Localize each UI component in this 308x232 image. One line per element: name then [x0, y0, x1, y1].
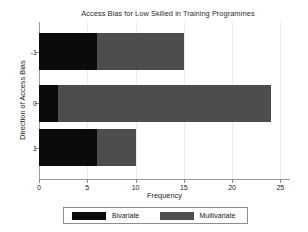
- x-tick: [39, 179, 40, 183]
- bar-segment-bivariate: [39, 129, 97, 166]
- bar-segment-bivariate: [39, 85, 58, 122]
- y-tick-label: 1: [33, 145, 37, 152]
- y-tick-label: 0: [33, 100, 37, 107]
- bar-segment-multivariate: [58, 85, 270, 122]
- legend-label-bivariate: Bivariate: [112, 212, 139, 219]
- bar-row: [39, 85, 271, 122]
- x-tick: [136, 179, 137, 183]
- chart-title: Access Bias for Low Skilled in Training …: [39, 9, 297, 18]
- y-tick-label: -1: [31, 49, 37, 56]
- bar-row: [39, 129, 136, 166]
- x-tick: [87, 179, 88, 183]
- legend-item-bivariate: Bivariate: [64, 212, 160, 220]
- bar-segment-bivariate: [39, 33, 97, 70]
- bar-segment-multivariate: [97, 129, 136, 166]
- bar-segment-multivariate: [97, 33, 184, 70]
- chart-legend: Bivariate Multivariate: [63, 207, 248, 224]
- x-tick-label: 10: [132, 184, 140, 191]
- y-axis-title: Direction of Access Bias: [18, 30, 27, 170]
- x-tick: [184, 179, 185, 183]
- x-tick: [280, 179, 281, 183]
- x-axis-line: [39, 179, 290, 180]
- legend-swatch-multivariate: [160, 212, 194, 220]
- x-tick-label: 0: [37, 184, 41, 191]
- chart-figure: Access Bias for Low Skilled in Training …: [0, 0, 308, 232]
- legend-item-multivariate: Multivariate: [160, 212, 248, 220]
- gridline: [280, 22, 281, 179]
- x-tick-label: 15: [180, 184, 188, 191]
- x-axis-title: Frequency: [39, 191, 290, 200]
- x-tick-label: 20: [228, 184, 236, 191]
- x-tick-label: 25: [276, 184, 284, 191]
- legend-swatch-bivariate: [72, 212, 106, 220]
- x-tick-label: 5: [85, 184, 89, 191]
- bar-row: [39, 33, 184, 70]
- x-tick: [232, 179, 233, 183]
- legend-label-multivariate: Multivariate: [200, 212, 236, 219]
